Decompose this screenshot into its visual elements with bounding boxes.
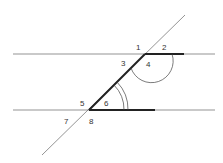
parallel-lines-diagram: 12345678 [0, 0, 223, 163]
angle-label-3: 3 [121, 59, 126, 68]
angle-label-4: 4 [146, 60, 151, 69]
angle-label-6: 6 [104, 99, 109, 108]
angle-label-2: 2 [162, 43, 167, 52]
angle-label-7: 7 [64, 117, 69, 126]
angle-4-arc [131, 54, 173, 83]
angle-label-5: 5 [80, 99, 85, 108]
angle-label-1: 1 [136, 43, 141, 52]
angle-6-arc-outer [117, 82, 128, 110]
angle-label-8: 8 [89, 117, 94, 126]
